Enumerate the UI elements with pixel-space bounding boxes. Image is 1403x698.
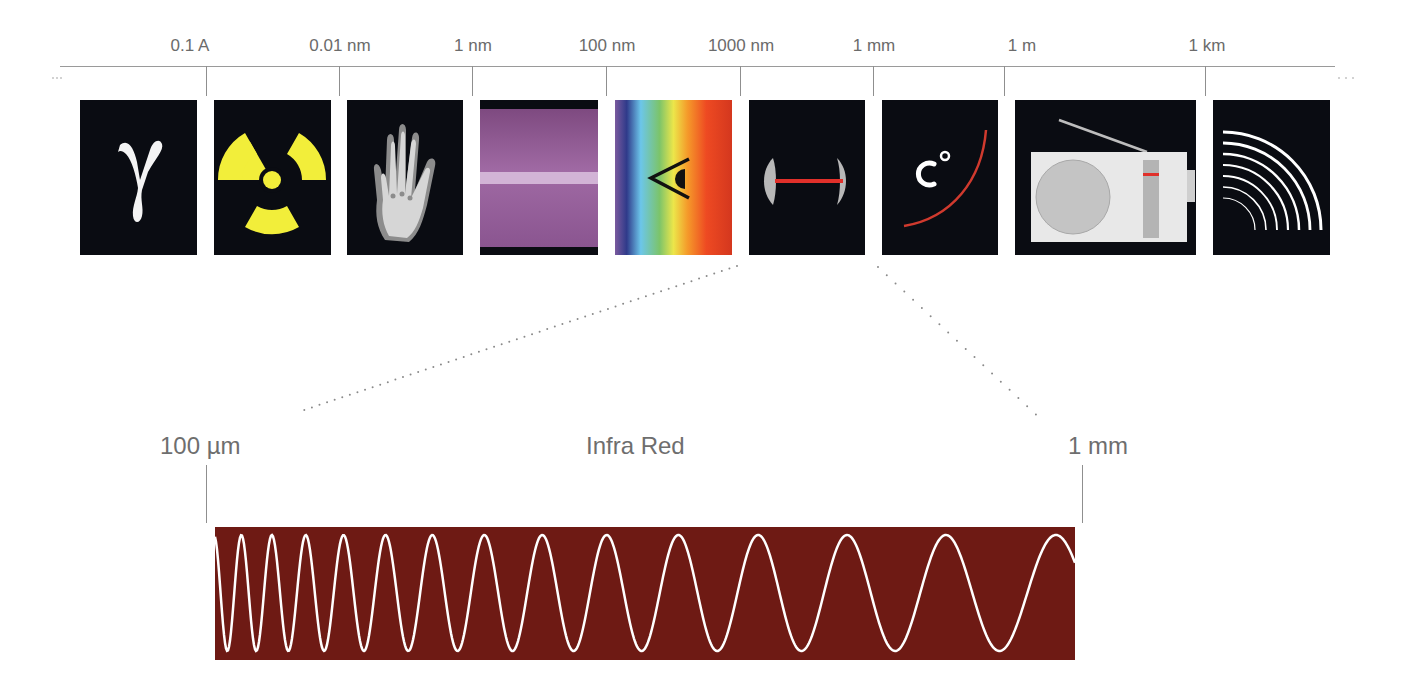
sine-wave-icon (215, 527, 1075, 660)
detail-left-tick (206, 465, 207, 523)
detail-right-tick (1082, 465, 1083, 523)
infrared-wave-band (215, 527, 1075, 660)
detail-band-name: Infra Red (586, 432, 685, 460)
detail-left-label: 100 µm (160, 432, 241, 460)
detail-right-label: 1 mm (1068, 432, 1128, 460)
